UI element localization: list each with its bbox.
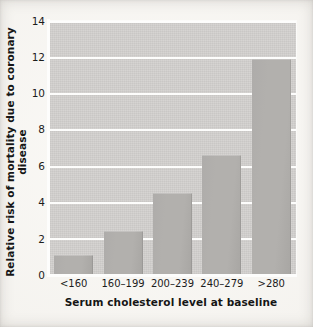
y-tick-label-14: 14 [21, 16, 45, 27]
plot-area [49, 21, 296, 275]
y-tick-label-4: 4 [21, 197, 45, 208]
y-tick-label-2: 2 [21, 234, 45, 245]
bar-series [49, 21, 296, 275]
x-axis-line [47, 274, 297, 277]
y-tick-label-6: 6 [21, 161, 45, 172]
bar-gt-280[interactable] [252, 59, 291, 275]
x-axis-title: Serum cholesterol level at baseline [40, 296, 302, 308]
bar-lt-160[interactable] [54, 255, 93, 275]
bar-200-239[interactable] [153, 193, 192, 275]
bar-160-199[interactable] [104, 231, 143, 275]
x-tick-labels: <160 160–199 200–239 240–279 >280 [49, 279, 296, 289]
y-tick-label-10: 10 [21, 88, 45, 99]
bar-chart-figure: Relative risk of mortality due to corona… [0, 0, 313, 327]
x-tick-label-0: <160 [50, 279, 98, 289]
x-tick-label-4: >280 [247, 279, 295, 289]
y-tick-label-0: 0 [21, 270, 45, 281]
x-tick-label-3: 240–279 [198, 279, 246, 289]
bar-240-279[interactable] [202, 155, 241, 275]
x-tick-label-2: 200–239 [148, 279, 196, 289]
y-tick-label-12: 12 [21, 52, 45, 63]
y-tick-label-8: 8 [21, 124, 45, 135]
x-tick-label-1: 160–199 [99, 279, 147, 289]
y-axis-line [47, 19, 50, 277]
